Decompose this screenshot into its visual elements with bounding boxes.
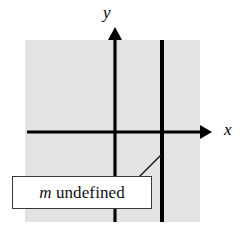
slope-variable: m — [39, 183, 51, 202]
figure-canvas: y x m undefined — [0, 0, 243, 231]
x-axis-label: x — [224, 121, 232, 138]
slope-value-word: undefined — [56, 183, 125, 202]
y-axis-label: y — [103, 4, 111, 21]
slope-callout-text: m undefined — [39, 183, 125, 203]
y-axis-arrowhead — [108, 27, 122, 40]
slope-callout-box: m undefined — [12, 176, 152, 209]
x-axis-arrowhead — [200, 125, 212, 139]
